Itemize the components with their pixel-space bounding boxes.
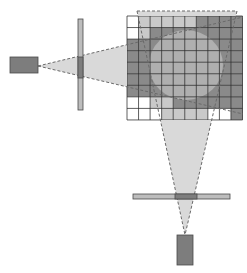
- grid-cell: [150, 16, 162, 28]
- grid-cell: [127, 51, 139, 63]
- grid-cell: [196, 108, 208, 120]
- overlap-circle: [149, 30, 223, 100]
- grid-cell: [127, 28, 139, 40]
- left-projector-source: [10, 57, 38, 73]
- grid-cell: [127, 74, 139, 86]
- bottom-projector-source: [177, 235, 193, 265]
- grid-cell: [127, 108, 139, 120]
- grid-cell: [231, 74, 243, 86]
- optics-diagram: [0, 0, 247, 273]
- grid-cell: [162, 108, 174, 120]
- grid-cell: [139, 28, 151, 40]
- grid-cell: [139, 62, 151, 74]
- overlap-ellipse: [149, 30, 223, 100]
- grid-cell: [231, 108, 243, 120]
- grid-cell: [139, 85, 151, 97]
- grid-cell: [173, 16, 185, 28]
- grid-cell: [219, 16, 231, 28]
- grid-cell: [231, 85, 243, 97]
- grid-cell: [139, 39, 151, 51]
- grid-cell: [231, 97, 243, 109]
- grid-cell: [127, 16, 139, 28]
- filter-overlap: [78, 57, 83, 78]
- grid-cell: [219, 97, 231, 109]
- left-filter-bar: [78, 19, 83, 110]
- grid-cell: [127, 62, 139, 74]
- grid-cell: [162, 16, 174, 28]
- grid-cell: [139, 51, 151, 63]
- grid-cell: [231, 28, 243, 40]
- grid-cell: [196, 97, 208, 109]
- grid-cell: [173, 108, 185, 120]
- grid-cell: [231, 39, 243, 51]
- grid-cell: [139, 108, 151, 120]
- grid-cell: [208, 28, 220, 40]
- grid-cell: [150, 97, 162, 109]
- bottom-beam-lower: [160, 120, 211, 235]
- grid-cell: [231, 62, 243, 74]
- grid-cell: [162, 97, 174, 109]
- filter-overlap: [175, 194, 197, 199]
- grid-cell: [219, 85, 231, 97]
- grid-cell: [185, 108, 197, 120]
- grid-cell: [139, 74, 151, 86]
- grid-cell: [219, 28, 231, 40]
- grid-cell: [139, 97, 151, 109]
- grid-cell: [127, 39, 139, 51]
- grid-cell: [127, 97, 139, 109]
- grid-cell: [127, 85, 139, 97]
- grid-cell: [231, 16, 243, 28]
- grid-cell: [219, 39, 231, 51]
- grid-cell: [150, 108, 162, 120]
- grid-cell: [231, 51, 243, 63]
- bottom-filter-bar: [133, 194, 230, 199]
- grid-cell: [208, 16, 220, 28]
- projector-box: [10, 57, 38, 73]
- bottom-beam-top-strip: [137, 11, 237, 16]
- projector-box: [177, 235, 193, 265]
- diagram-canvas: [0, 0, 247, 273]
- grid-cell: [185, 16, 197, 28]
